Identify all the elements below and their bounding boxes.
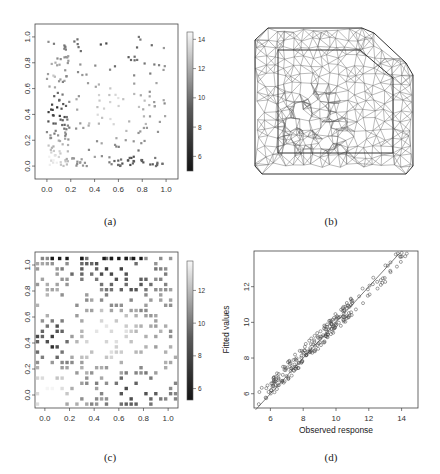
y-tick-label: 6 bbox=[242, 391, 251, 396]
x-tick-label: 10 bbox=[332, 414, 341, 423]
y-tick-label: 0.4 bbox=[23, 108, 32, 120]
panel-a-scatter: 0.00.20.40.60.81.00.00.20.40.60.81.06810… bbox=[0, 0, 220, 237]
x-tick-label: 6 bbox=[268, 414, 273, 423]
y-tick-label: 0.6 bbox=[23, 82, 32, 94]
scatter-plot-c: 0.00.20.40.60.81.00.00.20.40.60.81.06810… bbox=[0, 237, 220, 474]
panel-b-mesh bbox=[220, 0, 440, 237]
colorbar-tick-label: 8 bbox=[198, 124, 202, 131]
plot-c-colorbar: 681012 bbox=[187, 261, 206, 400]
x-axis-label: Observed response bbox=[299, 425, 373, 435]
caption-a: (a) bbox=[90, 215, 130, 227]
data-points bbox=[46, 36, 166, 167]
y-tick-label: 0.8 bbox=[23, 57, 32, 69]
y-tick-label: 1.0 bbox=[23, 31, 32, 43]
y-tick-label: 0.8 bbox=[23, 285, 32, 297]
mesh-triangles bbox=[255, 28, 413, 174]
x-tick-label: 0.2 bbox=[64, 414, 76, 423]
caption-d: (d) bbox=[311, 451, 351, 463]
x-tick-label: 12 bbox=[364, 414, 373, 423]
colorbar-tick-label: 8 bbox=[198, 352, 202, 359]
x-tick-label: 0.8 bbox=[137, 185, 149, 194]
panel-c-scatter: 0.00.20.40.60.81.00.00.20.40.60.81.06810… bbox=[0, 237, 220, 474]
colorbar-tick-label: 6 bbox=[198, 385, 202, 392]
y-tick-label: 0.2 bbox=[23, 363, 32, 375]
y-tick-label: 12 bbox=[242, 282, 251, 291]
x-tick-label: 0.0 bbox=[39, 414, 51, 423]
colorbar-tick-label: 12 bbox=[198, 65, 206, 72]
y-tick-label: 8 bbox=[242, 355, 251, 360]
data-points bbox=[257, 251, 408, 405]
scatter-plot-a: 0.00.20.40.60.81.00.00.20.40.60.81.06810… bbox=[0, 0, 220, 237]
colorbar-tick-label: 6 bbox=[198, 153, 202, 160]
x-tick-label: 0.4 bbox=[89, 414, 101, 423]
colorbar-tick-label: 14 bbox=[198, 36, 206, 43]
y-tick-label: 0.6 bbox=[23, 311, 32, 323]
x-tick-label: 0.4 bbox=[89, 185, 101, 194]
y-tick-label: 0.0 bbox=[23, 389, 32, 401]
x-tick-label: 1.0 bbox=[163, 414, 175, 423]
y-tick-label: 0.4 bbox=[23, 337, 32, 349]
plot-a-colorbar: 68101214 bbox=[187, 32, 206, 171]
x-tick-label: 0.2 bbox=[65, 185, 77, 194]
x-tick-label: 8 bbox=[301, 414, 306, 423]
plot-a-axes: 0.00.20.40.60.81.00.00.20.40.60.81.0 bbox=[23, 24, 178, 194]
plot-d-axes: 68101214681012 bbox=[242, 251, 418, 423]
fitted-vs-observed-plot: 68101214681012Observed responseFitted va… bbox=[220, 237, 440, 474]
y-tick-label: 0.2 bbox=[23, 134, 32, 146]
y-tick-label: 1.0 bbox=[23, 259, 32, 271]
x-tick-label: 0.6 bbox=[113, 185, 125, 194]
y-axis-label: Fitted values bbox=[221, 305, 231, 353]
colorbar-tick-label: 10 bbox=[198, 94, 206, 101]
x-tick-label: 14 bbox=[397, 414, 406, 423]
panel-d-fitted-vs-observed: 68101214681012Observed responseFitted va… bbox=[220, 237, 440, 474]
y-tick-label: 10 bbox=[242, 317, 251, 326]
x-tick-label: 0.8 bbox=[138, 414, 150, 423]
x-tick-label: 0.0 bbox=[41, 185, 53, 194]
triangular-mesh bbox=[220, 0, 440, 237]
y-tick-label: 0.0 bbox=[23, 160, 32, 172]
caption-c: (c) bbox=[90, 451, 130, 463]
colorbar-tick-label: 12 bbox=[198, 287, 206, 294]
x-tick-label: 1.0 bbox=[161, 185, 173, 194]
colorbar-tick-label: 10 bbox=[198, 320, 206, 327]
data-squares bbox=[36, 257, 177, 406]
caption-b: (b) bbox=[311, 215, 351, 227]
x-tick-label: 0.6 bbox=[113, 414, 125, 423]
